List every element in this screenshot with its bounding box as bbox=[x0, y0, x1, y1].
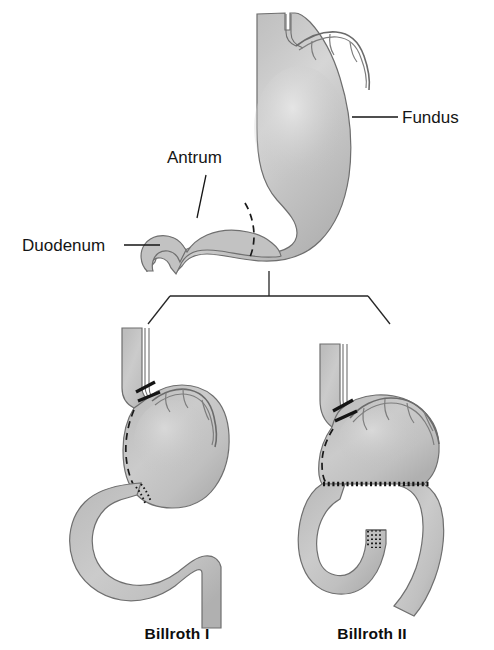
b1-esophagus bbox=[122, 328, 150, 408]
panel-normal-stomach: Fundus Antrum Duodenum bbox=[22, 13, 459, 274]
b1-pouch-highlight bbox=[134, 400, 210, 480]
bracket-left-arm bbox=[148, 296, 170, 324]
b1-duodenum-loop bbox=[70, 483, 221, 628]
stomach-highlight bbox=[254, 66, 346, 190]
label-antrum: Antrum bbox=[167, 148, 222, 167]
figure-root: Fundus Antrum Duodenum bbox=[0, 0, 494, 650]
bracket-right-arm bbox=[368, 296, 390, 324]
b2-efferent-limb bbox=[394, 484, 444, 616]
caption-billroth-1: Billroth I bbox=[145, 625, 210, 642]
panel-billroth-2: Billroth II bbox=[298, 344, 443, 642]
anatomy-diagram-canvas: Fundus Antrum Duodenum bbox=[0, 0, 494, 650]
antrum-leader-line bbox=[197, 175, 206, 218]
panel-billroth-1: Billroth I bbox=[70, 328, 229, 642]
label-duodenum: Duodenum bbox=[22, 236, 105, 255]
label-fundus: Fundus bbox=[402, 108, 459, 127]
branching-bracket bbox=[148, 271, 390, 324]
caption-billroth-2: Billroth II bbox=[337, 625, 406, 642]
